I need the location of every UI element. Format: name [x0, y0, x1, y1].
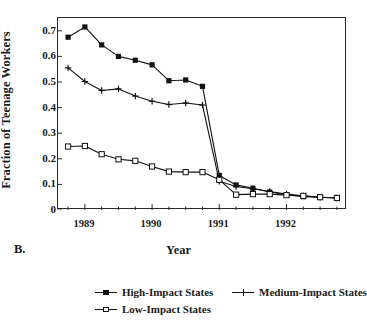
x-tick-label: 1989 — [73, 218, 94, 229]
legend-item-filled-square[interactable]: High-Impact States — [95, 286, 213, 298]
panel-label: B. — [14, 242, 25, 257]
x-tick-label: 1990 — [141, 218, 162, 229]
plus-marker-icon — [232, 286, 254, 298]
legend: High-Impact StatesMedium-Impact StatesLo… — [0, 286, 357, 320]
legend-label: Medium-Impact States — [259, 286, 367, 298]
legend-item-open-square[interactable]: Low-Impact States — [95, 303, 211, 315]
legend-row: High-Impact StatesMedium-Impact States — [0, 286, 357, 303]
x-tick-label: 1992 — [275, 218, 296, 229]
series-canvas — [58, 18, 347, 210]
filled-square-marker-icon — [95, 286, 117, 298]
x-axis-title: Year — [0, 243, 357, 258]
x-tick-label: 1991 — [208, 218, 229, 229]
legend-item-plus[interactable]: Medium-Impact States — [232, 286, 367, 298]
open-square-marker-icon — [95, 303, 117, 315]
plot-area — [57, 17, 346, 209]
legend-row: Low-Impact States — [0, 303, 357, 320]
legend-label: High-Impact States — [122, 286, 213, 298]
legend-label: Low-Impact States — [122, 303, 211, 315]
